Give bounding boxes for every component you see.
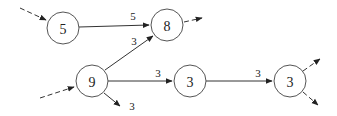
node-3a-label: 3 (187, 75, 194, 90)
node-9-label: 9 (89, 75, 96, 90)
edge-label-9-to-3a: 3 (155, 67, 161, 79)
node-8: 8 (151, 9, 183, 41)
dashed-incoming-edge-node-9 (40, 87, 74, 98)
node-3b: 3 (274, 65, 306, 97)
node-5-label: 5 (60, 22, 67, 37)
dashed-outgoing-up-edge-node-3b (303, 59, 320, 71)
graph-diagram: 5 3 3 3 3 5 8 9 3 3 (0, 0, 337, 116)
edge-9-outgoing (104, 93, 120, 106)
node-3b-label: 3 (287, 75, 294, 90)
node-5: 5 (47, 12, 79, 44)
graph-svg: 5 3 3 3 3 5 8 9 3 3 (0, 0, 337, 116)
edge-label-9-to-8: 3 (131, 35, 137, 47)
edge-5-to-8 (79, 25, 149, 27)
node-8-label: 8 (164, 19, 171, 34)
node-3a: 3 (174, 65, 206, 97)
edge-9-to-8 (105, 36, 153, 70)
edge-label-5-to-8: 5 (130, 10, 136, 22)
dashed-outgoing-down-edge-node-3b (303, 92, 318, 105)
dashed-incoming-edge-node-5 (20, 8, 46, 20)
edge-label-3a-to-3b: 3 (255, 67, 261, 79)
edge-label-9-outgoing: 3 (129, 100, 135, 112)
node-9: 9 (76, 65, 108, 97)
dashed-outgoing-edge-node-8 (184, 18, 202, 22)
